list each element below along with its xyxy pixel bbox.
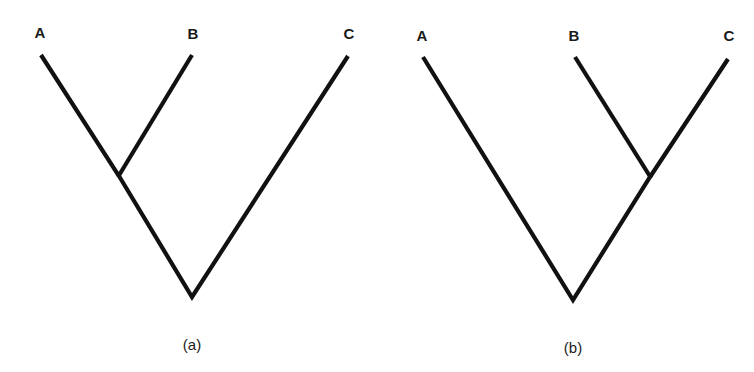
tree-panel-b: A B C (b) [417, 27, 735, 356]
tip-label-a: A [35, 24, 46, 41]
branch-b-to-bc-node [575, 57, 651, 178]
panel-caption-a: (a) [183, 336, 201, 353]
tip-label-b: B [188, 25, 199, 42]
tip-label-c: C [344, 25, 355, 42]
branch-b-to-ab-node [118, 55, 192, 177]
cladogram-figure: A B C (a) A B C (b) [0, 0, 754, 372]
tip-label-c: C [724, 27, 735, 44]
tip-label-a: A [417, 27, 428, 44]
tip-label-b: B [569, 27, 580, 44]
branch-a-to-c [423, 57, 728, 300]
branch-a-to-root [41, 55, 348, 297]
panel-caption-b: (b) [564, 339, 582, 356]
tree-panel-a: A B C (a) [35, 24, 355, 353]
